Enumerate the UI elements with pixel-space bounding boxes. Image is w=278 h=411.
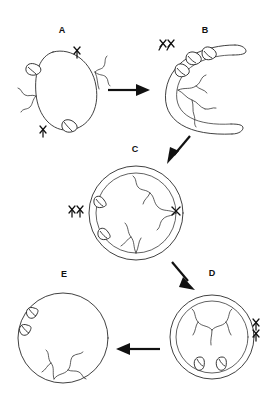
arrow-d-to-e [116, 343, 160, 355]
panel-a: A [18, 25, 110, 137]
xmark-left-b-2 [167, 40, 174, 50]
panel-label-d: D [209, 268, 216, 278]
panel-label-a: A [59, 25, 66, 35]
panel-c: C [69, 144, 183, 260]
panel-c-xmarks [69, 206, 180, 217]
xmark-left-c [69, 206, 75, 217]
xmark-left-c-2 [77, 206, 83, 217]
panel-c-membrane [89, 166, 183, 260]
panel-e-filaments [42, 350, 86, 379]
panel-d-membrane [170, 295, 254, 379]
panel-a-buds [26, 64, 77, 133]
panel-d-buds [194, 357, 226, 370]
panel-e-buds [19, 307, 38, 335]
panel-label-b: B [202, 25, 209, 35]
arrow-b-to-c [167, 136, 190, 164]
panel-b-buds [175, 47, 216, 77]
panel-b-xmarks [159, 40, 174, 50]
xmark-left-b [159, 40, 166, 50]
panel-b: B [159, 25, 246, 134]
panel-c-filaments [121, 176, 176, 253]
panel-e: E [18, 269, 108, 383]
xmark-bottom-a [40, 126, 46, 137]
panel-label-c: C [132, 144, 139, 154]
panel-b-filaments [178, 75, 216, 127]
process-diagram: A [0, 0, 278, 411]
figure-container: A [0, 0, 278, 411]
panel-e-membrane [18, 293, 108, 383]
panel-a-membrane [36, 51, 97, 130]
arrow-c-to-d [172, 262, 195, 290]
xmark-right-d [253, 319, 259, 330]
arrow-a-to-b [108, 84, 150, 96]
xmark-top-a [74, 47, 80, 58]
panel-label-e: E [61, 269, 67, 279]
panel-d-filaments [192, 309, 232, 345]
